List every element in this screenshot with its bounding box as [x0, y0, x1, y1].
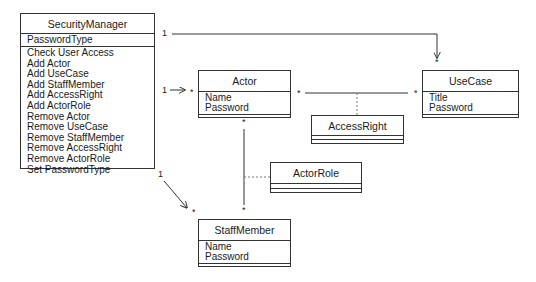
operation: Set PasswordType: [27, 165, 154, 176]
class-staff-member[interactable]: StaffMember Name Password: [198, 219, 291, 267]
class-name: UseCase: [423, 71, 518, 92]
multiplicity-label: 1: [162, 86, 167, 95]
multiplicity-label: 1: [162, 29, 167, 38]
class-security-manager[interactable]: SecurityManager PasswordType Check User …: [20, 13, 155, 169]
class-name: AccessRight: [312, 116, 403, 136]
multiplicity-label: *: [242, 118, 246, 127]
class-name: SecurityManager: [21, 14, 154, 34]
class-usecase[interactable]: UseCase Title Password: [422, 70, 519, 118]
multiplicity-label: *: [435, 58, 439, 67]
multiplicity-label: *: [297, 89, 301, 98]
multiplicity-label: 1: [158, 170, 163, 179]
class-name: StaffMember: [199, 220, 290, 241]
class-name: Actor: [199, 71, 290, 92]
class-operations: Check User Access Add Actor Add UseCase …: [21, 47, 154, 175]
class-attributes-empty: [312, 136, 403, 140]
operation: Check User Access: [27, 48, 154, 59]
attribute: PasswordType: [27, 35, 154, 45]
multiplicity-label: *: [192, 208, 196, 217]
class-attributes: PasswordType: [21, 34, 154, 47]
class-actor-role[interactable]: ActorRole: [270, 162, 362, 193]
attribute: Password: [205, 103, 290, 113]
operation: Remove ActorRole: [27, 154, 154, 165]
class-attributes: Name Password: [199, 241, 290, 264]
class-access-right[interactable]: AccessRight: [311, 115, 404, 144]
assoc-sm-staff: [164, 181, 187, 208]
multiplicity-label: *: [414, 89, 418, 98]
multiplicity-label: *: [242, 206, 246, 215]
attribute: Password: [429, 103, 518, 113]
class-attributes-empty: [271, 184, 361, 189]
attribute: Password: [205, 252, 290, 262]
class-actor[interactable]: Actor Name Password: [198, 70, 291, 118]
multiplicity-label: *: [190, 88, 194, 97]
class-attributes: Name Password: [199, 92, 290, 115]
operation: Add ActorRole: [27, 101, 154, 112]
assoc-sm-usecase: [172, 34, 437, 58]
class-name: ActorRole: [271, 163, 361, 184]
class-attributes: Title Password: [423, 92, 518, 115]
